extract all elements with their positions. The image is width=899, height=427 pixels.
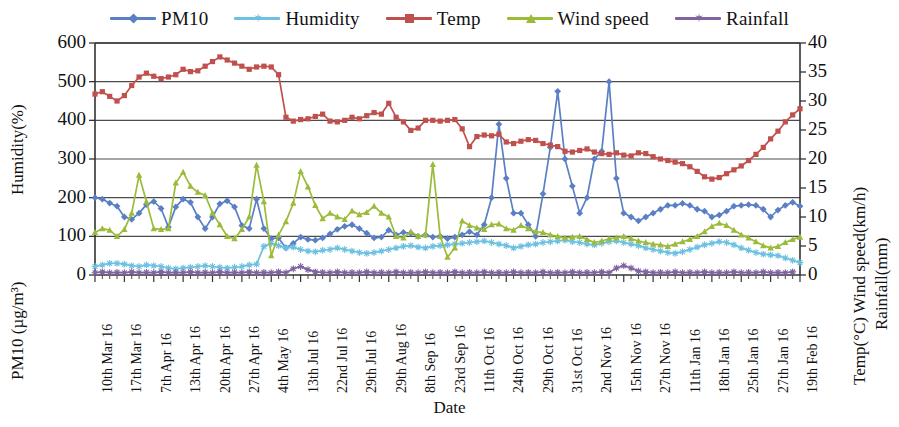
data-point [701, 241, 708, 248]
data-point [385, 269, 392, 276]
data-point [510, 269, 517, 276]
data-point [429, 234, 436, 241]
data-point [724, 171, 729, 176]
data-point [114, 269, 121, 276]
data-point [489, 133, 494, 138]
data-point [312, 202, 318, 208]
data-point [290, 244, 297, 251]
data-point [789, 269, 796, 276]
data-point [181, 67, 186, 72]
data-point [187, 269, 194, 276]
data-point [496, 241, 503, 248]
data-point [738, 231, 744, 237]
data-point [628, 214, 635, 221]
data-point [745, 247, 752, 254]
data-point [635, 268, 642, 275]
data-point [745, 269, 752, 276]
data-point [275, 269, 282, 276]
data-point [114, 260, 121, 267]
data-point [356, 249, 363, 256]
data-point [430, 118, 435, 123]
data-point [254, 64, 259, 69]
data-point [657, 206, 664, 213]
data-point [107, 94, 112, 99]
data-point [129, 83, 134, 88]
data-point [467, 144, 472, 149]
data-point [407, 242, 414, 249]
data-point [393, 269, 400, 276]
data-point [503, 269, 510, 276]
data-point [540, 239, 547, 246]
data-point [782, 269, 789, 276]
data-point [591, 269, 598, 276]
data-point [650, 246, 657, 253]
data-point [128, 262, 135, 269]
data-point [319, 247, 326, 254]
data-point [584, 194, 591, 201]
data-point [269, 64, 274, 69]
data-point [716, 220, 722, 226]
data-point [775, 252, 782, 259]
data-point [510, 210, 517, 217]
data-point [232, 61, 237, 66]
data-point [305, 266, 312, 273]
data-point [746, 158, 751, 163]
data-point [658, 156, 663, 161]
data-point [320, 112, 325, 117]
data-point [136, 172, 142, 178]
data-point [620, 262, 627, 269]
data-point [253, 162, 259, 168]
data-point [760, 251, 767, 258]
data-point [731, 269, 738, 276]
data-point [429, 243, 436, 250]
data-point [253, 196, 260, 203]
data-point [702, 174, 707, 179]
data-point [503, 242, 510, 249]
data-point [657, 269, 664, 276]
data-point [136, 74, 141, 79]
data-point [452, 245, 458, 251]
data-point [247, 67, 252, 72]
data-point [341, 246, 348, 253]
data-point [576, 239, 583, 246]
data-point [716, 212, 723, 219]
data-point [400, 269, 407, 276]
data-point [400, 243, 407, 250]
data-point [481, 238, 488, 245]
data-point [459, 269, 466, 276]
data-point [482, 132, 487, 137]
data-point [253, 269, 260, 276]
data-point [642, 214, 649, 221]
data-point [533, 138, 538, 143]
data-point [194, 269, 201, 276]
data-point [708, 240, 715, 247]
data-point [768, 136, 773, 141]
data-point [576, 269, 583, 276]
data-point [173, 72, 178, 77]
data-point [371, 110, 376, 115]
data-point [423, 118, 428, 123]
data-point [122, 93, 127, 98]
data-point [106, 269, 113, 276]
data-point [378, 248, 385, 255]
data-point [128, 269, 135, 276]
data-point [592, 149, 597, 154]
data-point [430, 161, 436, 167]
data-point [143, 198, 149, 204]
data-point [532, 241, 539, 248]
data-point [246, 262, 253, 269]
data-point [378, 269, 385, 276]
data-point [673, 159, 678, 164]
data-point [357, 116, 362, 121]
data-point [797, 106, 802, 111]
data-point [716, 238, 723, 245]
data-point [790, 112, 795, 117]
data-point [92, 263, 99, 270]
data-point [679, 269, 686, 276]
data-point [371, 203, 377, 209]
data-point [129, 210, 135, 216]
data-point [349, 221, 356, 228]
data-point [525, 269, 532, 276]
data-point [547, 238, 554, 245]
data-point [150, 262, 157, 269]
